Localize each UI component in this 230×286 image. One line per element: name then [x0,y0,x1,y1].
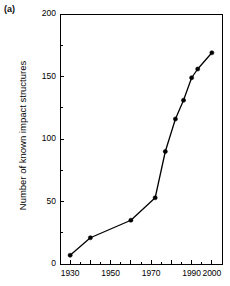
data-point [190,76,194,80]
plot-border [60,14,222,264]
y-tick-label: 100 [42,133,56,143]
x-tick-label: 1930 [61,268,80,278]
x-axis-ticks [70,260,212,264]
y-tick-label: 50 [47,196,57,206]
x-tick-label: 1990 [182,268,201,278]
y-axis-ticks [60,14,64,264]
figure-panel-a: (a) Number of known impact structures 05… [0,0,230,286]
line-chart-plot: 050100150200 19301950197019902000 [0,0,230,286]
data-series-line [70,53,212,256]
data-point [88,236,92,240]
data-point [196,67,200,71]
y-tick-label: 200 [42,8,56,18]
x-axis-tick-labels: 19301950197019902000 [61,268,222,278]
data-point [153,196,157,200]
data-series-markers [68,51,214,258]
data-point [163,149,167,153]
y-tick-label: 150 [42,71,56,81]
data-point [173,117,177,121]
data-point [129,218,133,222]
plot-frame [60,14,222,264]
y-tick-label: 0 [51,258,56,268]
y-axis-tick-labels: 050100150200 [42,8,56,268]
x-tick-label: 1970 [142,268,161,278]
x-tick-label: 2000 [202,268,221,278]
data-point [68,253,72,257]
data-point [181,98,185,102]
data-point [210,51,214,55]
x-tick-label: 1950 [101,268,120,278]
